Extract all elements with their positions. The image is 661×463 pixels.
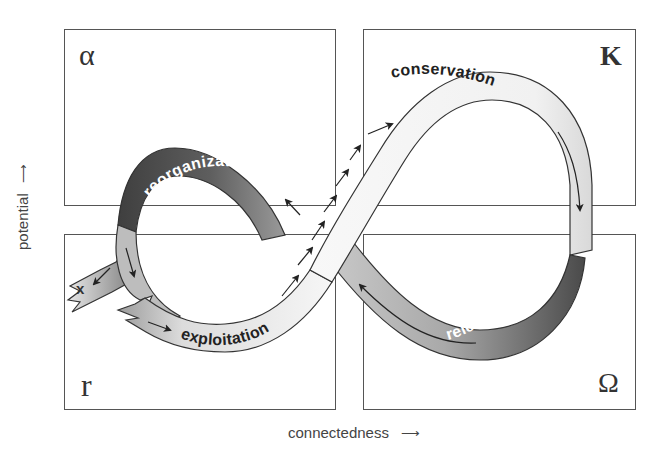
adaptive-cycle-ribbon: reorganization conservation release expl… <box>0 0 661 463</box>
exit-x-label: x <box>76 280 85 297</box>
